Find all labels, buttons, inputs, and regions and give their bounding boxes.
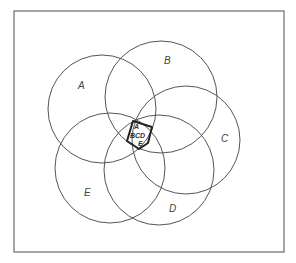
venn-diagram: ABCDE ABCDE [0,0,296,263]
diagram-frame [14,11,284,252]
set-label-d: D [169,203,176,214]
set-label-b: B [164,55,171,66]
set-label-a: A [77,80,85,91]
circle-d [104,115,214,225]
intersection-label: A [133,123,139,130]
set-label-e: E [84,187,91,198]
circle-b [105,41,217,153]
set-label-c: C [221,133,229,144]
intersection-label: E [138,140,143,147]
intersection-label: BCD [130,132,145,139]
circle-e [55,113,165,223]
